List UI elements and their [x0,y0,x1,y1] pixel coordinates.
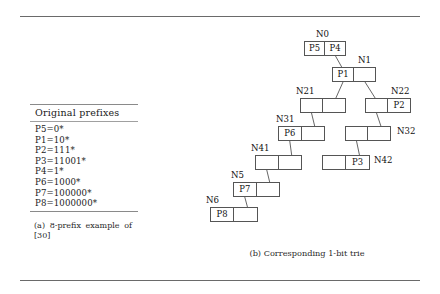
trie-node-label-n0: N0 [316,30,329,39]
trie-node-n31: P6 [278,126,325,141]
trie-edge-n5-n6 [245,197,248,207]
trie-node-label-n31: N31 [276,115,294,124]
trie-node-label-n41: N41 [251,144,269,153]
trie-node-cell-0 [301,99,323,112]
trie-node-cell-1 [323,99,345,112]
prefix-table-body: P5=0* P1=10* P2=111* P3=11001* P4=1* P6=… [30,122,138,211]
trie-edge-n1-n21 [336,82,343,98]
trie-canvas: P5P4N0P1N1N21P2N22P6N31N32N41P3N42P7N5P8… [180,26,430,241]
trie-node-label-n21: N21 [296,87,314,96]
trie-node-cell-1 [234,208,257,221]
prefix-row: P1=10* [35,135,138,146]
prefix-row: P4=1* [35,166,138,177]
trie-node-cell-0: P1 [333,68,354,81]
trie-node-cell-1: P2 [388,99,410,112]
trie-node-cell-0 [366,99,388,112]
prefix-table-header: Original prefixes [30,105,138,121]
trie-node-cell-0 [256,156,279,169]
trie-node-n5: P7 [233,182,280,197]
trie-node-cell-0: P8 [211,208,234,221]
trie-node-label-n32: N32 [397,127,415,136]
prefix-row: P2=111* [35,145,138,156]
subfigure-b-trie: P5P4N0P1N1N21P2N22P6N31N32N41P3N42P7N5P8… [180,26,430,271]
trie-edge-n0-n1 [336,56,342,67]
prefix-row: P6=1000* [35,177,138,188]
trie-node-n21 [300,98,346,113]
trie-node-cell-0: P5 [305,42,325,55]
trie-node-label-n1: N1 [358,56,371,65]
trie-node-cell-1 [354,68,375,81]
trie-node-cell-0 [346,127,368,140]
trie-node-label-n42: N42 [374,156,392,165]
trie-node-label-n22: N22 [391,87,409,96]
trie-edge-n32-n42 [357,141,360,155]
trie-node-n41 [255,155,302,170]
figure-bottom-rule [20,280,420,281]
prefix-table: Original prefixes P5=0* P1=10* P2=111* P… [30,104,138,212]
prefix-row: P7=100000* [35,188,138,199]
figure-top-rule [20,16,420,17]
prefix-row: P8=1000000* [35,198,138,209]
trie-node-cell-1 [302,127,325,140]
subfigure-a-prefix-table: Original prefixes P5=0* P1=10* P2=111* P… [30,104,142,241]
subfigure-a-caption: (a) 8-prefix example of [30] [30,221,132,241]
trie-node-cell-0 [323,156,346,169]
table-bottom-rule [30,211,138,212]
trie-node-cell-1 [368,127,390,140]
trie-node-cell-1: P3 [346,156,369,169]
trie-edge-n41-n5 [267,170,270,182]
subfigure-b-caption: (b) Corresponding 1-bit trie [202,248,412,258]
prefix-row: P5=0* [35,124,138,135]
trie-node-n1: P1 [332,67,376,82]
trie-node-cell-1: P4 [325,42,345,55]
prefix-row: P3=11001* [35,156,138,167]
trie-edge-n21-n31 [312,113,315,126]
trie-edge-n1-n22 [365,82,375,98]
trie-node-n6: P8 [210,207,258,222]
trie-edge-n31-n41 [290,141,292,155]
trie-node-label-n6: N6 [206,196,219,205]
trie-node-n32 [345,126,391,141]
trie-node-n22: P2 [365,98,411,113]
trie-node-cell-0: P7 [234,183,257,196]
trie-node-cell-1 [257,183,280,196]
trie-node-n42: P3 [322,155,370,170]
trie-node-label-n5: N5 [231,171,244,180]
trie-edge-n22-n32 [377,113,381,126]
trie-node-cell-1 [279,156,302,169]
trie-node-n0: P5P4 [304,41,346,56]
trie-node-cell-0: P6 [279,127,302,140]
